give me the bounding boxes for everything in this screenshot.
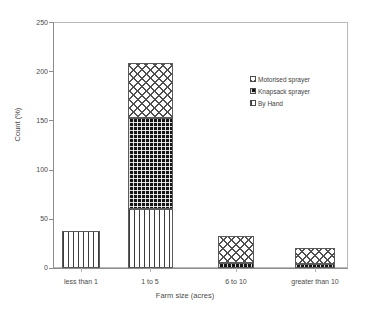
x-tick-2 xyxy=(150,268,151,272)
y-axis-line xyxy=(53,22,54,268)
bar-chart: 250 200 150 100 50 0 Count (%) less than… xyxy=(0,0,370,315)
x-tick-label-less-than-1: less than 1 xyxy=(51,278,111,286)
x-axis-line xyxy=(53,268,348,269)
bar-segment-motorised-sprayer xyxy=(128,63,173,118)
x-tick-3 xyxy=(236,268,237,272)
legend-label-knapsack-sprayer: Knapsack sprayer xyxy=(258,88,310,95)
x-tick-1 xyxy=(81,268,82,272)
x-tick-label-1-to-5: 1 to 5 xyxy=(120,278,180,286)
y-tick-label-0: 0 xyxy=(8,264,48,271)
bar-group-6-to-10 xyxy=(218,236,254,269)
legend-swatch-vertical-lines-icon xyxy=(250,100,256,106)
y-tick-label-250: 250 xyxy=(8,19,48,26)
bar-segment-motorised-sprayer xyxy=(218,236,254,264)
legend-label-motorised-sprayer: Motorised sprayer xyxy=(258,76,310,83)
y-tick-100 xyxy=(49,170,53,171)
y-tick-250 xyxy=(49,22,53,23)
legend-label-by-hand: By Hand xyxy=(258,100,283,107)
legend-item-by-hand: By Hand xyxy=(250,98,310,108)
bar-segment-knapsack-sprayer xyxy=(295,264,335,268)
y-tick-label-50: 50 xyxy=(8,215,48,222)
y-tick-200 xyxy=(49,71,53,72)
legend-item-motorised-sprayer: Motorised sprayer xyxy=(250,74,310,84)
bar-segment-knapsack-sprayer xyxy=(128,118,173,209)
y-tick-label-100: 100 xyxy=(8,166,48,173)
y-axis-title: Count (%) xyxy=(13,95,22,155)
x-tick-label-6-to-10: 6 to 10 xyxy=(206,278,266,286)
bar-segment-by-hand xyxy=(128,209,173,268)
y-tick-label-200: 200 xyxy=(8,68,48,75)
x-tick-4 xyxy=(315,268,316,272)
bar-segment-knapsack-sprayer xyxy=(218,263,254,268)
bar-group-less-than-1 xyxy=(62,231,100,268)
x-tick-label-greater-than-10: greater than 10 xyxy=(280,278,350,286)
legend-swatch-dark-dotted-icon xyxy=(250,88,256,94)
chart-legend: Motorised sprayer Knapsack sprayer By Ha… xyxy=(250,74,310,110)
legend-swatch-crosshatch-icon xyxy=(250,76,256,82)
y-tick-50 xyxy=(49,219,53,220)
bar-segment-motorised-sprayer xyxy=(295,248,335,264)
bar-group-1-to-5 xyxy=(128,63,173,268)
bar-segment-by-hand xyxy=(62,231,100,268)
legend-item-knapsack-sprayer: Knapsack sprayer xyxy=(250,86,310,96)
x-axis-title: Farm size (acres) xyxy=(0,291,370,300)
y-tick-150 xyxy=(49,120,53,121)
bar-group-greater-than-10 xyxy=(295,248,335,268)
